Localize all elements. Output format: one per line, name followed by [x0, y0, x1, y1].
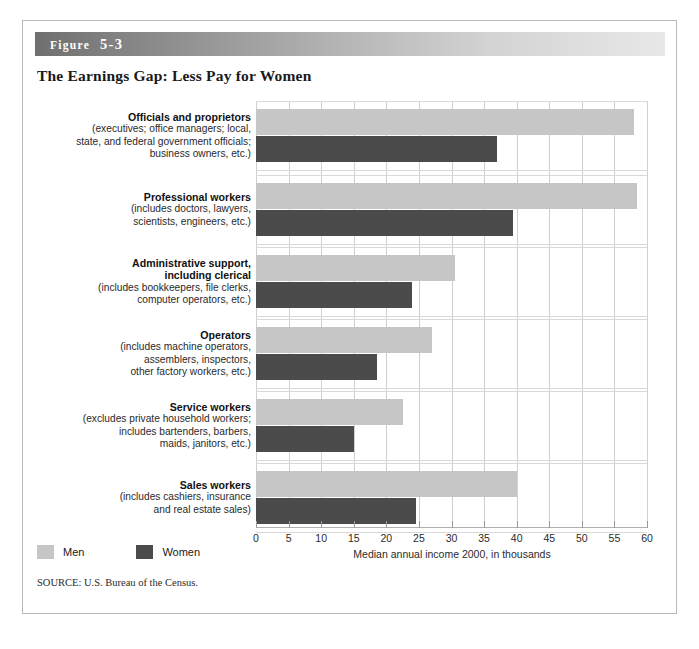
category-label: Administrative support,including clerica… [46, 257, 251, 307]
legend-label: Men [63, 546, 84, 558]
category-label-detail: (executives; office managers; local, [46, 123, 251, 135]
gridline-horizontal [256, 244, 647, 245]
bar-women [256, 354, 377, 380]
gridline-horizontal [256, 460, 647, 461]
gridline-horizontal [256, 388, 647, 389]
category-label-detail: business owners, etc.) [46, 148, 251, 160]
x-axis-tick-label: 15 [339, 532, 369, 544]
category-label-detail: maids, janitors, etc.) [46, 438, 251, 450]
bar-men [256, 183, 637, 209]
bar-men [256, 255, 455, 281]
category-label-title: Administrative support, [46, 257, 251, 269]
bar-women [256, 136, 497, 162]
x-axis-tick-mark [549, 521, 550, 528]
x-axis-tick-label: 35 [469, 532, 499, 544]
x-axis-tick-label: 0 [241, 532, 271, 544]
category-label-detail: scientists, engineers, etc.) [46, 216, 251, 228]
category-label: Professional workers(includes doctors, l… [46, 191, 251, 228]
x-axis-tick-label: 30 [437, 532, 467, 544]
bar-men [256, 399, 403, 425]
x-axis-tick-label: 50 [567, 532, 597, 544]
x-axis-tick-label: 60 [632, 532, 662, 544]
x-axis-tick-mark [484, 521, 485, 528]
gridline-horizontal [256, 319, 647, 320]
source-note: SOURCE: U.S. Bureau of the Census. [37, 577, 198, 588]
category-label-detail: and real estate sales) [46, 504, 251, 516]
category-label: Operators(includes machine operators,ass… [46, 329, 251, 379]
legend-swatch-women [136, 545, 153, 559]
category-label-title: Service workers [46, 401, 251, 413]
x-axis-tick-label: 55 [599, 532, 629, 544]
figure-frame: Figure 5-3 The Earnings Gap: Less Pay fo… [22, 20, 677, 614]
bar-women [256, 498, 416, 524]
gridline-horizontal [256, 247, 647, 248]
category-label-detail: includes bartenders, barbers, [46, 426, 251, 438]
bar-men [256, 109, 634, 135]
figure-word: Figure [50, 39, 90, 51]
x-axis-tick-mark [289, 521, 290, 528]
x-axis-title: Median annual income 2000, in thousands [256, 548, 648, 560]
legend-item: Men [37, 545, 84, 559]
chart-gridlines [256, 101, 647, 527]
category-label-title: Professional workers [46, 191, 251, 203]
page-title: The Earnings Gap: Less Pay for Women [37, 67, 311, 85]
category-label: Service workers(excludes private househo… [46, 401, 251, 451]
x-axis-tick-mark [419, 521, 420, 528]
chart-legend: MenWomen [37, 545, 252, 559]
x-axis-tick-mark [386, 521, 387, 528]
bar-men [256, 471, 517, 497]
x-axis-tick-label: 25 [404, 532, 434, 544]
x-axis-tick-label: 5 [274, 532, 304, 544]
gridline-horizontal [256, 463, 647, 464]
gridline-horizontal [256, 175, 647, 176]
x-axis-tick-mark [582, 521, 583, 528]
category-label-title: Operators [46, 329, 251, 341]
category-label-title: Sales workers [46, 479, 251, 491]
figure-number: 5-3 [100, 36, 123, 52]
category-label-title: Officials and proprietors [46, 111, 251, 123]
category-label-detail: (includes machine operators, [46, 341, 251, 353]
gridline-horizontal [256, 316, 647, 317]
x-axis-tick-label: 10 [306, 532, 336, 544]
bar-women [256, 210, 513, 236]
x-axis-tick-label: 20 [371, 532, 401, 544]
bar-men [256, 327, 432, 353]
x-axis-tick-mark [517, 521, 518, 528]
x-axis-tick-label: 40 [502, 532, 532, 544]
x-axis-tick-mark [354, 521, 355, 528]
category-label-detail: (includes doctors, lawyers, [46, 203, 251, 215]
x-axis-tick-mark [256, 521, 257, 528]
category-label-detail: (excludes private household workers; [46, 413, 251, 425]
x-axis-tick-mark [321, 521, 322, 528]
chart-plot-area [256, 101, 647, 527]
gridline-horizontal [256, 101, 647, 102]
gridline-horizontal [256, 391, 647, 392]
category-label-detail: computer operators, etc.) [46, 294, 251, 306]
x-axis-tick-mark [614, 521, 615, 528]
category-label: Sales workers(includes cashiers, insuran… [46, 479, 251, 516]
category-label-title: including clerical [46, 269, 251, 281]
x-axis-tick-mark [452, 521, 453, 528]
category-label-detail: (includes bookkeepers, file clerks, [46, 282, 251, 294]
gridline-vertical [647, 101, 648, 527]
x-axis-tick-mark [647, 521, 648, 528]
bar-women [256, 426, 354, 452]
x-axis-tick-label: 45 [534, 532, 564, 544]
category-label: Officials and proprietors(executives; of… [46, 111, 251, 161]
legend-label: Women [162, 546, 200, 558]
legend-item: Women [136, 545, 200, 559]
figure-banner-label: Figure 5-3 [50, 36, 123, 53]
gridline-horizontal [256, 170, 647, 171]
legend-swatch-men [37, 545, 54, 559]
bar-women [256, 282, 412, 308]
category-label-detail: state, and federal government officials; [46, 136, 251, 148]
figure-banner: Figure 5-3 [35, 32, 665, 56]
category-label-detail: assemblers, inspectors, [46, 354, 251, 366]
category-label-detail: (includes cashiers, insurance [46, 491, 251, 503]
category-label-detail: other factory workers, etc.) [46, 366, 251, 378]
